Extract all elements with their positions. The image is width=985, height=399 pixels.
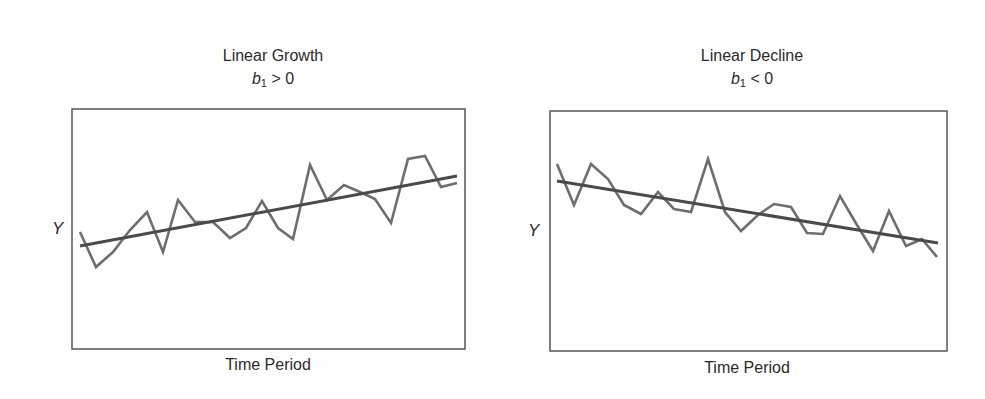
chart-canvas [0,0,985,399]
plot-frame-1 [550,111,947,351]
trend-line [80,176,457,246]
trend-line [557,181,938,243]
observed-series-line [557,159,937,257]
